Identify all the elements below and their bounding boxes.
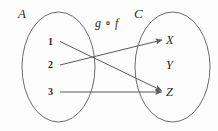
codomain-element-Z: Z <box>166 86 173 99</box>
domain-set-label: A <box>18 7 26 20</box>
composition-label: g ∘ f <box>95 17 119 29</box>
domain-set-ellipse <box>22 12 95 122</box>
codomain-element-X: X <box>166 34 174 47</box>
domain-element-1: 1 <box>48 37 53 47</box>
domain-element-3: 3 <box>48 87 53 97</box>
arrow-2-to-X <box>60 40 162 65</box>
arrow-1-to-Z <box>60 42 162 91</box>
codomain-set-label: C <box>134 7 143 20</box>
function-composition-diagram: A C g ∘ f 1 2 3 X Y Z <box>0 0 218 131</box>
domain-element-2: 2 <box>48 60 53 70</box>
codomain-element-Y: Y <box>166 59 173 72</box>
